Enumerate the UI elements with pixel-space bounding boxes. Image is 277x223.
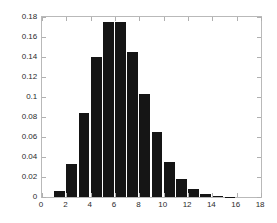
x-axis-tick [237, 17, 238, 21]
x-axis-tick-label: 6 [112, 200, 116, 209]
y-axis-tick [257, 97, 261, 98]
x-axis-tick [261, 193, 262, 197]
y-axis-tick-label: 0.06 [22, 132, 37, 141]
y-axis-tick [42, 157, 46, 158]
y-axis-tick [257, 77, 261, 78]
y-axis-tick [257, 117, 261, 118]
histogram-bar [79, 113, 90, 197]
y-axis-tick [42, 197, 46, 198]
x-axis-tick-label: 12 [183, 200, 192, 209]
y-axis-tick [257, 57, 261, 58]
y-axis-tick [42, 137, 46, 138]
histogram-bar [225, 197, 236, 198]
y-axis-tick-label: 0.02 [22, 172, 37, 181]
histogram-bar [54, 191, 65, 198]
y-axis-tick [42, 97, 46, 98]
histogram-bar [66, 164, 77, 198]
x-axis-tick [66, 193, 67, 197]
x-axis-tick [139, 17, 140, 21]
x-axis-tick [42, 193, 43, 197]
x-axis-tick [164, 193, 165, 197]
x-axis-tick [91, 193, 92, 197]
y-axis-tick [257, 197, 261, 198]
histogram-bar [127, 52, 138, 198]
y-axis-tick-label: 0.04 [22, 152, 37, 161]
bars-layer [42, 17, 261, 197]
y-axis-tick-label: 0.16 [22, 32, 37, 41]
plot-area [41, 16, 262, 198]
y-axis-tick [42, 57, 46, 58]
histogram-figure: 00.020.040.060.080.10.120.140.160.18 024… [0, 0, 277, 223]
y-axis-tick [42, 37, 46, 38]
x-axis-tick-label: 10 [158, 200, 167, 209]
x-axis-tick [115, 193, 116, 197]
histogram-bar [188, 189, 199, 197]
x-axis-tick [66, 17, 67, 21]
histogram-bar [91, 57, 102, 197]
histogram-bar [103, 22, 114, 197]
y-axis-tick-label: 0.18 [22, 12, 37, 21]
y-axis-tick [42, 177, 46, 178]
x-axis-tick [115, 17, 116, 21]
x-axis-tick-label: 0 [39, 200, 43, 209]
y-axis-tick-label: 0.12 [22, 72, 37, 81]
x-axis-tick [261, 17, 262, 21]
x-axis-tick [188, 193, 189, 197]
y-axis-tick-label: 0.1 [26, 92, 37, 101]
histogram-bar [152, 132, 163, 197]
histogram-bar [164, 162, 175, 198]
y-axis-tick-label: 0.14 [22, 52, 37, 61]
x-axis-tick [91, 17, 92, 21]
x-axis-tick-label: 2 [63, 200, 67, 209]
y-axis-tick [257, 177, 261, 178]
x-axis-tick [188, 17, 189, 21]
y-axis-tick [42, 117, 46, 118]
x-axis-tick-label: 8 [136, 200, 140, 209]
y-axis-tick-label: 0.08 [22, 112, 37, 121]
x-axis-tick [212, 17, 213, 21]
y-axis-tick [257, 157, 261, 158]
x-axis-tick-labels: 024681012141618 [41, 200, 262, 214]
x-axis-tick [139, 193, 140, 197]
histogram-bar [212, 196, 223, 197]
y-axis-tick [257, 37, 261, 38]
histogram-bar [200, 194, 211, 197]
x-axis-tick-label: 14 [207, 200, 216, 209]
x-axis-tick [42, 17, 43, 21]
x-axis-tick-label: 18 [256, 200, 265, 209]
histogram-bar [115, 22, 126, 197]
histogram-bar [176, 179, 187, 197]
x-axis-tick [212, 193, 213, 197]
histogram-bar [139, 94, 150, 198]
y-axis-tick [42, 77, 46, 78]
y-axis-tick-labels: 00.020.040.060.080.10.120.140.160.18 [0, 16, 37, 198]
x-axis-tick [237, 193, 238, 197]
x-axis-tick-label: 4 [87, 200, 91, 209]
x-axis-tick [164, 17, 165, 21]
y-axis-tick-label: 0 [33, 192, 37, 201]
y-axis-tick [257, 137, 261, 138]
x-axis-tick-label: 16 [231, 200, 240, 209]
